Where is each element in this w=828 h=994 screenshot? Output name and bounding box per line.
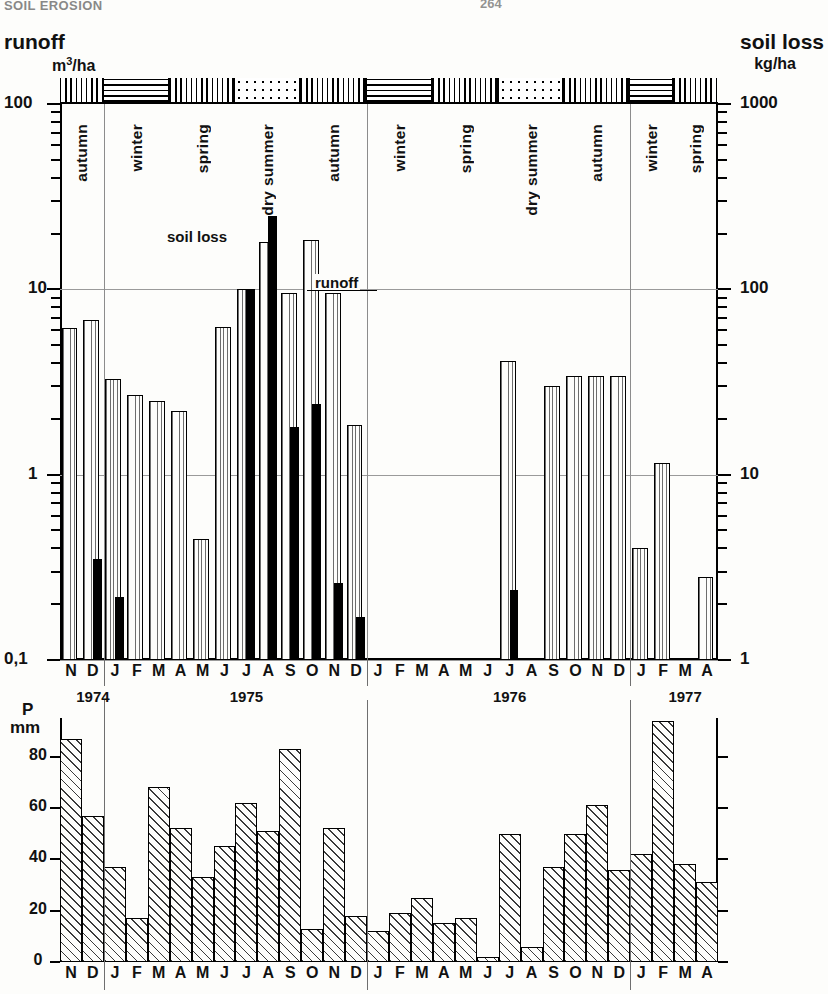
season-block-dry-summer	[235, 78, 301, 102]
precipitation-plot	[60, 718, 718, 962]
soil-loss-annotation: soil loss	[165, 228, 229, 245]
precip-bar-O-11	[301, 929, 323, 962]
precip-month-26: J	[637, 964, 646, 982]
top-month-0: N	[65, 662, 77, 680]
top-year-sep	[367, 662, 368, 686]
soil-loss-bar-20	[510, 590, 519, 660]
y-left-label-1: 1	[28, 464, 37, 484]
tick-minor-l	[51, 492, 60, 494]
precip-month-8: J	[242, 964, 251, 982]
tick-minor-l	[51, 306, 60, 308]
soil-loss-bar-8	[246, 289, 255, 660]
precip-month-6: M	[196, 964, 209, 982]
season-label-autumn: autumn	[588, 124, 606, 182]
tick-minor-r	[718, 515, 727, 517]
top-month-6: M	[196, 662, 209, 680]
tick-minor-l	[51, 502, 60, 504]
top-year-labels: 1974197519761977	[60, 688, 718, 710]
figure-root: SOIL EROSION 264 runoff soil loss m3/ha …	[0, 0, 828, 994]
top-year-sep	[630, 662, 631, 686]
top-month-2: J	[110, 662, 119, 680]
precip-y-label-0: 0	[34, 951, 43, 969]
soil-loss-bar-2	[115, 597, 124, 660]
top-month-14: J	[374, 662, 383, 680]
tick-minor-r	[718, 233, 727, 235]
precip-tick-60	[718, 807, 728, 809]
precip-month-17: A	[438, 964, 450, 982]
running-head-text: SOIL EROSION	[4, 0, 102, 10]
tick-major-l-100	[47, 103, 60, 105]
runoff-bar-23	[566, 376, 582, 660]
top-month-28: M	[678, 662, 691, 680]
tick-minor-l	[51, 344, 60, 346]
top-month-13: D	[350, 662, 362, 680]
top-month-20: J	[505, 662, 514, 680]
tick-minor-r	[718, 306, 727, 308]
precip-month-15: F	[395, 964, 405, 982]
precip-bar-S-10	[279, 749, 301, 962]
tick-minor-l	[51, 317, 60, 319]
precip-bar-N-12	[323, 828, 345, 962]
tick-minor-l	[51, 329, 60, 331]
top-month-9: A	[263, 662, 275, 680]
tick-minor-r	[718, 132, 727, 134]
top-month-5: A	[175, 662, 187, 680]
precip-y-label-60: 60	[29, 797, 47, 815]
season-label-winter: winter	[643, 124, 661, 171]
tick-major-r-1	[718, 474, 731, 476]
right-units: kg/ha	[754, 55, 796, 73]
precip-bar-F-15	[389, 913, 411, 962]
tick-minor-l	[51, 529, 60, 531]
season-block-autumn	[564, 78, 630, 102]
runoff-bar-0	[62, 328, 78, 660]
tick-minor-l	[51, 547, 60, 549]
tick-minor-r	[718, 603, 727, 605]
precip-month-0: N	[65, 964, 77, 982]
precip-month-3: F	[132, 964, 142, 982]
tick-minor-r	[718, 121, 727, 123]
top-month-11: O	[306, 662, 318, 680]
season-label-winter: winter	[391, 124, 409, 171]
tick-minor-r	[718, 144, 727, 146]
y-left-label-100: 100	[4, 93, 32, 113]
top-month-21: A	[526, 662, 538, 680]
precip-bar-M-4	[148, 787, 170, 962]
precip-month-1: D	[87, 964, 99, 982]
precip-bar-J-8	[235, 803, 257, 962]
precip-month-25: D	[614, 964, 626, 982]
precip-bar-F-3	[126, 918, 148, 962]
precip-bar-J-26	[630, 854, 652, 962]
soil-loss-title: soil loss	[740, 30, 824, 54]
runoff-bar-25	[610, 376, 626, 660]
precip-tick-0	[50, 961, 60, 963]
tick-minor-r	[718, 362, 727, 364]
tick-minor-l	[51, 385, 60, 387]
y-left-label-10: 10	[28, 278, 47, 298]
precip-bar-N-24	[586, 805, 608, 962]
precip-bar-D-25	[608, 870, 630, 962]
tick-minor-r	[718, 482, 727, 484]
precip-month-2: J	[110, 964, 119, 982]
runoff-title: runoff	[4, 30, 65, 54]
season-block-winter	[104, 78, 170, 102]
top-month-15: F	[395, 662, 405, 680]
precip-bar-M-28	[674, 864, 696, 962]
season-block-winter	[367, 78, 433, 102]
precip-month-18: M	[459, 964, 472, 982]
top-month-22: S	[548, 662, 559, 680]
precip-bar-F-27	[652, 721, 674, 962]
tick-major-l-10	[47, 288, 60, 290]
season-block-spring	[433, 78, 499, 102]
runoff-leader	[307, 290, 377, 291]
tick-minor-r	[718, 547, 727, 549]
top-year-1976: 1976	[493, 688, 526, 705]
tick-minor-l	[51, 132, 60, 134]
top-month-19: J	[483, 662, 492, 680]
precip-bar-J-14	[367, 931, 389, 962]
top-month-26: J	[637, 662, 646, 680]
season-block-winter	[630, 78, 674, 102]
tick-minor-l	[51, 362, 60, 364]
season-block-autumn	[60, 78, 104, 102]
soil-loss-bar-13	[356, 617, 365, 660]
runoff-bar-27	[654, 463, 670, 660]
